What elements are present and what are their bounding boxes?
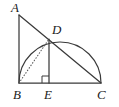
geometry-figure: A B C D E xyxy=(0,0,119,107)
figure-canvas: A B C D E xyxy=(0,0,119,107)
right-angle-marker-at-e xyxy=(42,76,49,83)
vertex-label-b: B xyxy=(13,87,21,102)
vertex-label-e: E xyxy=(43,87,52,102)
vertex-label-a: A xyxy=(10,0,19,15)
semicircle-bc-arc xyxy=(19,42,101,83)
vertex-label-c: C xyxy=(97,87,106,102)
vertex-label-d: D xyxy=(51,22,62,37)
